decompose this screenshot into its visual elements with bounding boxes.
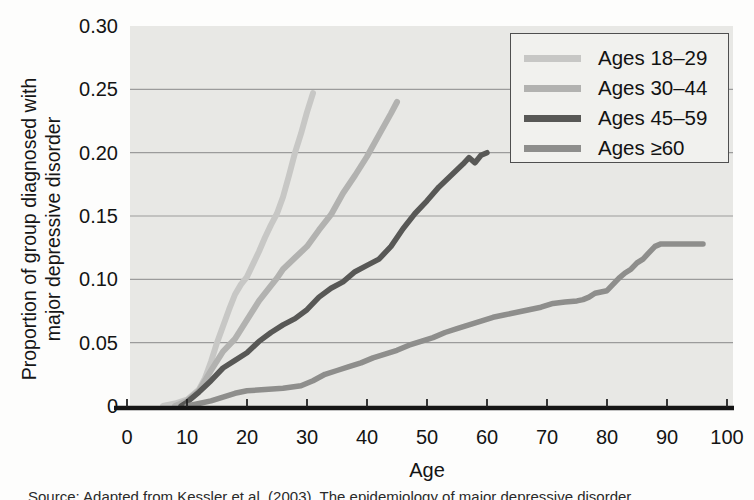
legend-swatch-line bbox=[524, 85, 581, 92]
y-tick-label: 0.30 bbox=[56, 15, 118, 37]
x-tick-label: 60 bbox=[459, 426, 515, 448]
x-tick-label: 90 bbox=[639, 426, 695, 448]
source-caption: Source: Adapted from Kessler et al. (200… bbox=[28, 489, 744, 500]
x-tick-label: 100 bbox=[699, 426, 754, 448]
legend-swatch-line bbox=[524, 145, 581, 152]
legend-label: Ages 30–44 bbox=[598, 76, 707, 100]
legend-swatch-line bbox=[524, 55, 581, 62]
x-tick-label: 20 bbox=[219, 426, 275, 448]
y-axis-title-line1: Proportion of group diagnosed with bbox=[17, 78, 41, 380]
x-tick-label: 40 bbox=[339, 426, 395, 448]
y-tick-label: 0 bbox=[56, 395, 118, 417]
x-tick-label: 30 bbox=[279, 426, 335, 448]
x-axis-title: Age bbox=[127, 459, 727, 482]
legend-item: Ages 30–44 bbox=[511, 73, 728, 103]
legend-label: Ages ≥60 bbox=[598, 136, 684, 160]
legend-swatch-line bbox=[524, 115, 581, 122]
x-tick-label: 50 bbox=[399, 426, 455, 448]
legend-label: Ages 18–29 bbox=[598, 46, 707, 70]
depression-prevalence-figure: Proportion of group diagnosed with major… bbox=[0, 0, 754, 500]
legend-item: Ages 18–29 bbox=[511, 43, 728, 73]
x-tick-label: 70 bbox=[519, 426, 575, 448]
legend: Ages 18–29 Ages 30–44 Ages 45–59 Ages ≥6… bbox=[510, 33, 729, 163]
x-tick-label: 0 bbox=[99, 426, 155, 448]
y-tick-label: 0.25 bbox=[56, 78, 118, 100]
legend-label: Ages 45–59 bbox=[598, 106, 707, 130]
legend-item: Ages ≥60 bbox=[511, 133, 728, 163]
y-tick-label: 0.05 bbox=[56, 332, 118, 354]
y-tick-label: 0.20 bbox=[56, 142, 118, 164]
legend-item: Ages 45–59 bbox=[511, 103, 728, 133]
y-tick-label: 0.15 bbox=[56, 205, 118, 227]
x-tick-label: 10 bbox=[159, 426, 215, 448]
x-tick-label: 80 bbox=[579, 426, 635, 448]
y-tick-label: 0.10 bbox=[56, 268, 118, 290]
